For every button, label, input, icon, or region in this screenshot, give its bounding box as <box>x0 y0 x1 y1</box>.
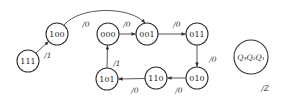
edge-101-to-000 <box>107 46 108 69</box>
edge-label-001-to-011: /0 <box>172 20 181 29</box>
state-100: 100 <box>46 23 68 45</box>
state-label-001: 001 <box>139 30 154 39</box>
state-label-000: 000 <box>100 30 115 39</box>
state-001: 001 <box>136 23 158 45</box>
edge-label-010-to-110: /0 <box>174 86 183 95</box>
state-000: 000 <box>97 23 119 45</box>
state-label-111: 111 <box>20 57 35 66</box>
edge-label-110-to-101: /0 <box>130 86 139 95</box>
edge-label-101-to-000: /1 <box>112 59 120 68</box>
legend-state-label: Q₃Q₂Q₁ <box>237 53 264 62</box>
edge-label-011-to-010: /0 <box>208 55 217 64</box>
state-label-110: 110 <box>148 74 163 83</box>
legend-output-label: /Z <box>260 84 270 93</box>
state-diagram: /1 /0 /0 /0 /0 /0 /0 /1 111 100 000 001 … <box>0 0 281 97</box>
state-010: 010 <box>186 67 208 89</box>
edge-110-to-101 <box>119 79 146 80</box>
edge-100-to-001 <box>64 10 145 25</box>
state-label-011: 011 <box>189 30 204 39</box>
state-label-100: 100 <box>49 30 64 39</box>
state-label-101: 101 <box>99 75 114 84</box>
edge-label-000-to-001: /0 <box>122 20 131 29</box>
state-110: 110 <box>145 67 167 89</box>
state-101: 101 <box>96 68 118 90</box>
edge-label-100-to-001: /0 <box>81 20 90 29</box>
legend: Q₃Q₂Q₁ /Z <box>234 40 270 93</box>
state-011: 011 <box>186 23 208 45</box>
state-label-010: 010 <box>189 74 204 83</box>
edge-label-111-to-100: /1 <box>43 51 51 60</box>
state-111: 111 <box>17 50 39 72</box>
